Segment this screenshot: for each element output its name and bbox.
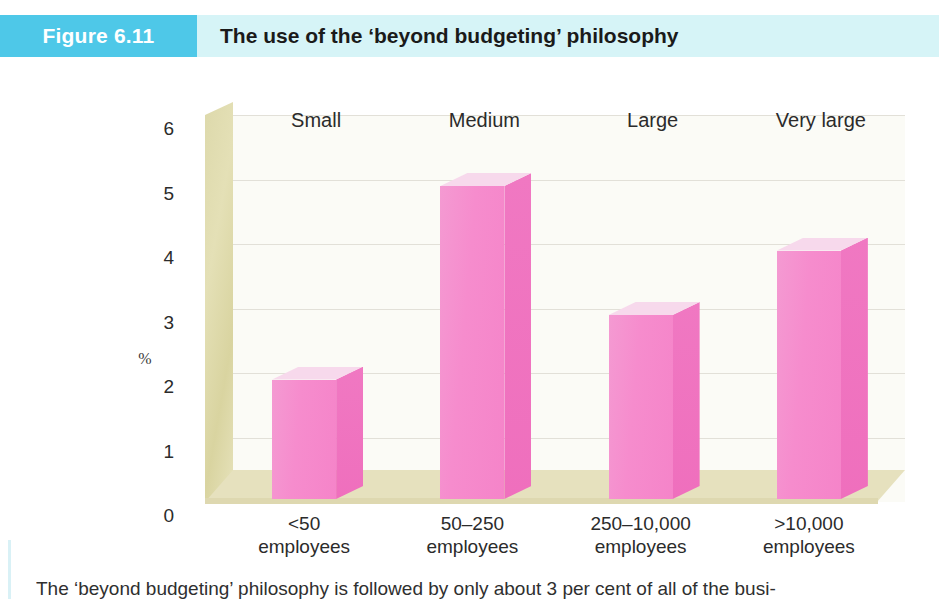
bar [777,251,841,499]
chart-area: % 0123456 SmallMediumLargeVery large <50… [0,57,939,547]
gridline [232,180,905,181]
bar-side-face [841,238,868,499]
bar-side-face [336,367,363,499]
category-range-text: >10,000 [709,512,909,535]
caption-left-rule [8,540,11,599]
y-tick-label: 0 [148,506,174,525]
category-unit-text: employees [709,535,909,558]
category-bottom-label: >10,000employees [709,512,909,558]
bar [272,380,336,499]
y-tick-label: 4 [148,248,174,267]
y-axis-unit-label: % [132,350,158,368]
bar-side-face [673,302,700,499]
figure-caption: The ‘beyond budgeting’ philosophy is fol… [36,578,926,599]
y-tick-label: 3 [148,313,174,332]
bar [440,186,504,499]
y-tick-label: 5 [148,184,174,203]
y-tick-label: 2 [148,377,174,396]
bar-front-face [609,315,673,499]
plot-frame [205,102,905,502]
bar-front-face [777,251,841,499]
plot-left-wall [205,102,233,502]
category-top-label: Very large [721,109,921,132]
bar-side-face [504,173,531,499]
figure-header-band: Figure 6.11 The use of the ‘beyond budge… [0,15,939,57]
figure-number-box: Figure 6.11 [0,15,197,57]
figure-number-label: Figure 6.11 [43,24,155,48]
y-tick-label: 1 [148,442,174,461]
y-tick-label: 6 [148,119,174,138]
figure-title: The use of the ‘beyond budgeting’ philos… [220,15,679,57]
bar-front-face [272,380,336,499]
bar [609,315,673,499]
bar-front-face [440,186,504,499]
